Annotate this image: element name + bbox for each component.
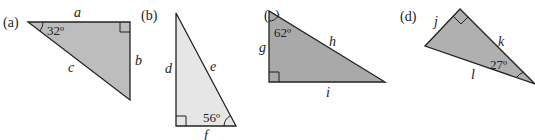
side-g-label: g [259, 40, 266, 55]
triangle-b-label: (b) [141, 8, 158, 24]
side-b-label: b [135, 53, 142, 68]
side-f-label: f [204, 128, 210, 140]
angle-label: 62º [274, 25, 291, 40]
angle-label: 27º [490, 57, 507, 72]
side-i-label: i [326, 85, 330, 100]
triangle-a-label: (a) [3, 15, 19, 31]
side-l-label: l [471, 67, 475, 82]
right-triangles-figure: (a) 32º a b c (b) 56º d e f (c) 62º g h … [0, 0, 535, 140]
triangle-b: (b) 56º d e f [141, 8, 236, 140]
side-h-label: h [329, 34, 336, 49]
side-c-label: c [68, 60, 75, 75]
triangle-d-shape [425, 9, 535, 84]
side-e-label: e [210, 59, 216, 74]
triangle-c: (c) 62º g h i [259, 8, 385, 100]
angle-label: 32º [47, 23, 64, 38]
triangle-c-shape [269, 11, 385, 82]
triangle-d-label: (d) [400, 9, 417, 25]
triangle-d: (d) 27º j k l [400, 9, 535, 84]
side-a-label: a [74, 5, 81, 20]
side-k-label: k [498, 34, 505, 49]
triangle-a-shape [28, 22, 130, 100]
angle-label: 56º [203, 110, 220, 125]
triangle-a: (a) 32º a b c [3, 5, 142, 100]
side-j-label: j [432, 14, 438, 29]
side-d-label: d [165, 61, 173, 76]
